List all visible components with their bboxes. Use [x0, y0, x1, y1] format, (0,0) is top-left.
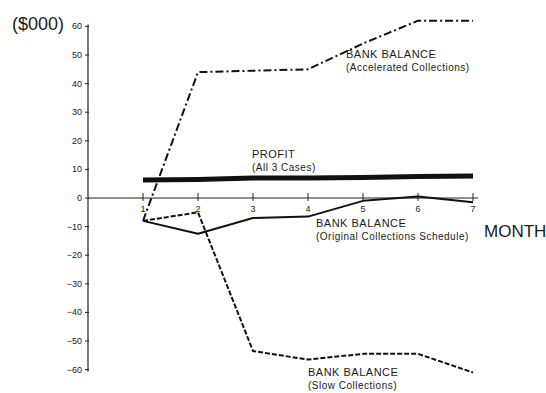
annotation-accelerated: BANK BALANCE (Accelerated Collections): [346, 48, 470, 73]
x-tick-label: 6: [415, 204, 420, 214]
y-tick-label: 30: [72, 107, 82, 117]
x-axis-label: MONTH: [484, 222, 546, 242]
annotation-title: BANK BALANCE: [316, 217, 469, 229]
annotation-subtitle: (Slow Collections): [308, 380, 398, 391]
y-tick-label: −10: [67, 222, 82, 232]
x-tick-label: 5: [360, 204, 365, 214]
annotation-title: PROFIT: [252, 148, 316, 160]
annotation-slow: BANK BALANCE (Slow Collections): [308, 366, 398, 391]
line-profit: [143, 176, 473, 180]
x-tick-label: 3: [250, 204, 255, 214]
y-tick-label: −30: [67, 279, 82, 289]
annotation-title: BANK BALANCE: [346, 48, 470, 60]
y-tick-label: 10: [72, 164, 82, 174]
y-tick-label: 40: [72, 79, 82, 89]
annotation-subtitle: (Accelerated Collections): [346, 62, 470, 73]
y-tick-label: 50: [72, 50, 82, 60]
x-tick-label: 4: [305, 204, 310, 214]
axes: 6050403020100−10−20−30−40−50−601234567: [67, 21, 478, 374]
y-axis-unit-label: ($000): [12, 14, 64, 35]
y-tick-label: −50: [67, 336, 82, 346]
annotation-profit: PROFIT (All 3 Cases): [252, 148, 316, 173]
y-tick-label: −40: [67, 307, 82, 317]
annotation-title: BANK BALANCE: [308, 366, 398, 378]
annotation-original: BANK BALANCE (Original Collections Sched…: [316, 217, 469, 242]
y-tick-label: 60: [72, 21, 82, 31]
x-tick-label: 7: [470, 204, 475, 214]
y-tick-label: −60: [67, 365, 82, 375]
x-tick-label: 1: [140, 204, 145, 214]
annotation-subtitle: (All 3 Cases): [252, 162, 316, 173]
y-tick-label: 0: [77, 193, 82, 203]
y-tick-label: −20: [67, 250, 82, 260]
y-tick-label: 20: [72, 136, 82, 146]
annotation-subtitle: (Original Collections Schedule): [316, 231, 469, 242]
